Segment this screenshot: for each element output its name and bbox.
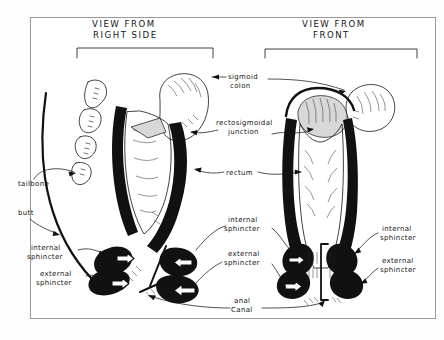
leader-tailbone (34, 169, 74, 179)
arrowhead-butt (53, 231, 60, 236)
tailbone-vertebrae (72, 80, 107, 185)
anal-canal-marker-left-cap (140, 284, 158, 292)
left-title-bracket (77, 48, 213, 58)
left-panel-title-line2: RIGHT SIDE (93, 30, 158, 40)
arrowhead-anal-canal-right (318, 300, 325, 307)
rectal-folds-right (304, 150, 337, 218)
rectum-wall-anterior-left (147, 122, 187, 253)
left-figure (42, 74, 208, 304)
label-rectum: rectum (226, 169, 253, 177)
right-title-bracket (265, 49, 417, 58)
label-left-external-line1: external (40, 270, 72, 278)
label-sigmoid-colon-line1: sigmoid (228, 73, 258, 81)
label-anal-canal-line2: Canal (231, 306, 253, 314)
label-left-internal-line2: sphincter (27, 253, 63, 261)
arrowhead-rectosig-left (190, 130, 197, 135)
label-center-internal-line2: sphincter (224, 225, 260, 233)
sigmoid-haustra-right (353, 91, 385, 119)
arrowhead-sigmoid-left (212, 74, 219, 79)
arrowhead-anal-canal-left (148, 295, 156, 300)
rectal-folds-left (133, 130, 158, 212)
label-right-external-line2: sphincter (380, 266, 416, 274)
label-tailbone: tailbone (18, 180, 49, 188)
label-anal-canal-line1: anal (234, 297, 250, 305)
leader-sigmoid-right (268, 79, 344, 90)
anal-canal-marker-right (321, 244, 328, 300)
leader-rectum-right (258, 172, 300, 174)
right-panel-title-line2: FRONT (313, 30, 350, 40)
anatomy-drawing: VIEW FROM RIGHT SIDE VIEW FROM FRONT (0, 0, 444, 340)
label-left-internal-line1: internal (31, 244, 61, 252)
label-center-external-line1: external (228, 250, 260, 258)
right-panel-title-line1: VIEW FROM (302, 19, 366, 29)
label-left-external-line2: sphincter (36, 279, 72, 287)
rectal-valve-left (131, 118, 166, 138)
sigmoid-haustra-left (168, 78, 201, 127)
left-panel-title-line1: VIEW FROM (92, 19, 156, 29)
label-right-internal-line2: sphincter (380, 234, 416, 242)
right-figure (277, 85, 395, 306)
label-rectosigmoidal-line2: junction (227, 128, 259, 136)
rectum-wall-posterior-left (112, 106, 138, 236)
illustration-canvas: VIEW FROM RIGHT SIDE VIEW FROM FRONT (0, 0, 444, 340)
leader-center-internal-left (196, 226, 226, 250)
colon-lumen-right (298, 96, 347, 138)
label-rectosigmoidal-line1: rectosigmoidal (216, 119, 273, 127)
external-sphincter-right-right (330, 270, 363, 299)
label-right-external-line1: external (382, 257, 414, 265)
label-butt: butt (18, 209, 34, 217)
label-sigmoid-colon-line2: colon (230, 82, 251, 90)
leader-anal-canal-right (262, 302, 324, 308)
arrowhead-tailbone (69, 171, 76, 176)
sigmoid-colon-left (160, 74, 209, 141)
arrowhead-rectum-left (194, 168, 202, 173)
label-right-internal-line1: internal (382, 225, 412, 233)
arrowhead-right-internal (354, 248, 361, 254)
label-center-internal-line1: internal (228, 216, 258, 224)
label-center-external-line2: sphincter (224, 259, 260, 267)
